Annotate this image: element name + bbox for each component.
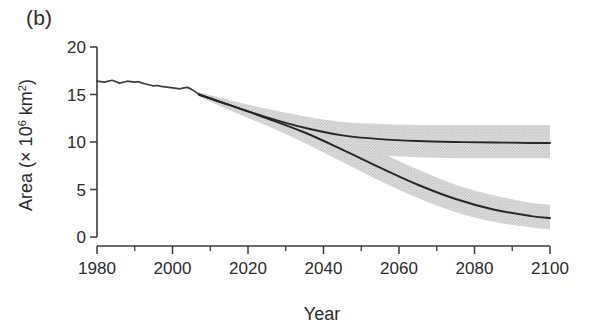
x-tick-label: 2080 <box>456 259 494 278</box>
x-tick-label: 2060 <box>380 259 418 278</box>
x-tick-label: 2000 <box>154 259 192 278</box>
x-tick-label: 2020 <box>229 259 267 278</box>
figure-panel-b: (b) 051015201980200020202040206020802100… <box>0 0 590 332</box>
y-tick-label: 10 <box>67 133 86 152</box>
y-tick-label: 20 <box>67 38 86 57</box>
y-axis-title: Area (× 106 km2) <box>16 79 36 211</box>
x-axis-title: Year <box>304 304 340 324</box>
y-tick-label: 5 <box>77 181 86 200</box>
svg-text:Area (× 106 km2): Area (× 106 km2) <box>16 79 36 211</box>
y-tick-label: 15 <box>67 86 86 105</box>
x-tick-label: 1980 <box>78 259 116 278</box>
x-tick-label: 2100 <box>531 259 569 278</box>
chart-plot-area: 051015201980200020202040206020802100 Yea… <box>0 0 590 332</box>
x-tick-label: 2040 <box>305 259 343 278</box>
y-tick-label: 0 <box>77 228 86 247</box>
